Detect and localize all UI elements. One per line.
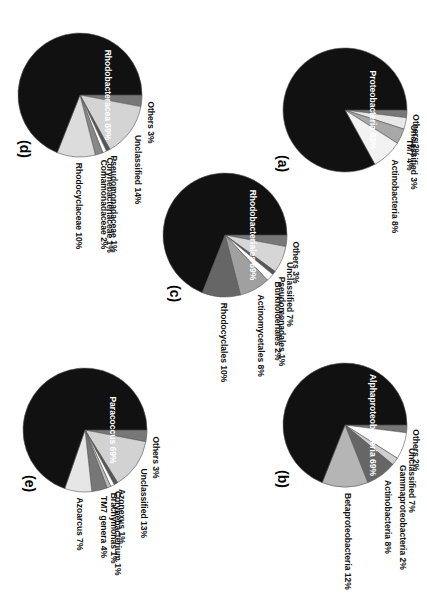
slice-label: TM7 4% — [405, 139, 415, 171]
slice-label: Others 3% — [151, 436, 161, 478]
slice-label: TM7 genera 4% — [99, 496, 109, 558]
slice-label: Gammaproteobacteria 2% — [398, 465, 408, 570]
panel-tag: (c) — [167, 285, 183, 302]
slice-label: Comamonadaceae 2% — [99, 160, 109, 250]
slice-label: Brachymonas 1% — [109, 493, 119, 564]
panel-tag: (d) — [17, 140, 33, 158]
slice-label: Rhodocyclaceae 10% — [74, 163, 84, 250]
slice-label: Proteobacteria 83% — [368, 71, 378, 150]
pie-chart-e: Others 3%Unclassified 13%Azonexus 1%Cory… — [22, 368, 161, 576]
panel-tag: (a) — [275, 155, 291, 172]
panel-tag: (e) — [22, 475, 38, 492]
pie-chart-d: Others 3%Unclassified 14%Pseudomonadacea… — [17, 33, 156, 253]
slice-label: Actinobacteria 8% — [383, 480, 393, 554]
slice-label: Rhodobacteriales 69% — [248, 190, 258, 281]
slice-label: Rhodocyclales 10% — [219, 303, 229, 383]
slice-label: Others 3% — [146, 101, 156, 143]
pie-chart-b: Others 2%Unclassified 7%Gammaproteobacte… — [275, 363, 421, 590]
slice-label: Betaproteobacteria 12% — [343, 493, 353, 590]
figure: Others 2%Unclassified 3%TM7 4%Actinobact… — [0, 0, 427, 599]
slice-label: Unclassified 14% — [133, 135, 143, 205]
slice-label: Alphaproteobacteria 69% — [368, 374, 378, 476]
pie-chart-c: Others 3%Unclassified 7%Pseudomonadales … — [163, 173, 301, 383]
slice-label: Unclassified 13% — [139, 469, 149, 539]
pie-chart-a: Others 2%Unclassified 3%TM7 4%Actinobact… — [275, 48, 421, 234]
slice-label: Actinomycetales 8% — [256, 295, 266, 378]
slice-label: Rhodobacteracea 69% — [103, 50, 113, 141]
slice-label: Actinobacteria 8% — [390, 160, 400, 234]
panel-tag: (b) — [275, 470, 291, 488]
pie-figure: Others 2%Unclassified 3%TM7 4%Actinobact… — [0, 0, 427, 599]
slice-label: Burkholderiales 2% — [273, 282, 283, 361]
slice-label: Azoarcus 7% — [75, 498, 85, 551]
slice-label: Paracoccus 69% — [108, 396, 118, 464]
